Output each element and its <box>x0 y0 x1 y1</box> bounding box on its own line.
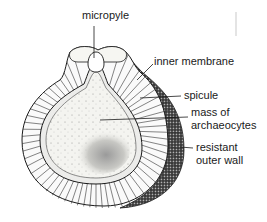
micropyle-opening <box>88 52 104 72</box>
label-spicule: spicule <box>184 89 218 102</box>
label-mass-of-archaeocytes: mass of archaeocytes <box>191 106 256 132</box>
label-inner-membrane: inner membrane <box>154 55 234 68</box>
gemmule-diagram: micropyle inner membrane spicule mass of… <box>0 0 267 222</box>
label-resistant-outer-wall: resistant outer wall <box>196 141 243 167</box>
label-micropyle: micropyle <box>82 9 129 22</box>
